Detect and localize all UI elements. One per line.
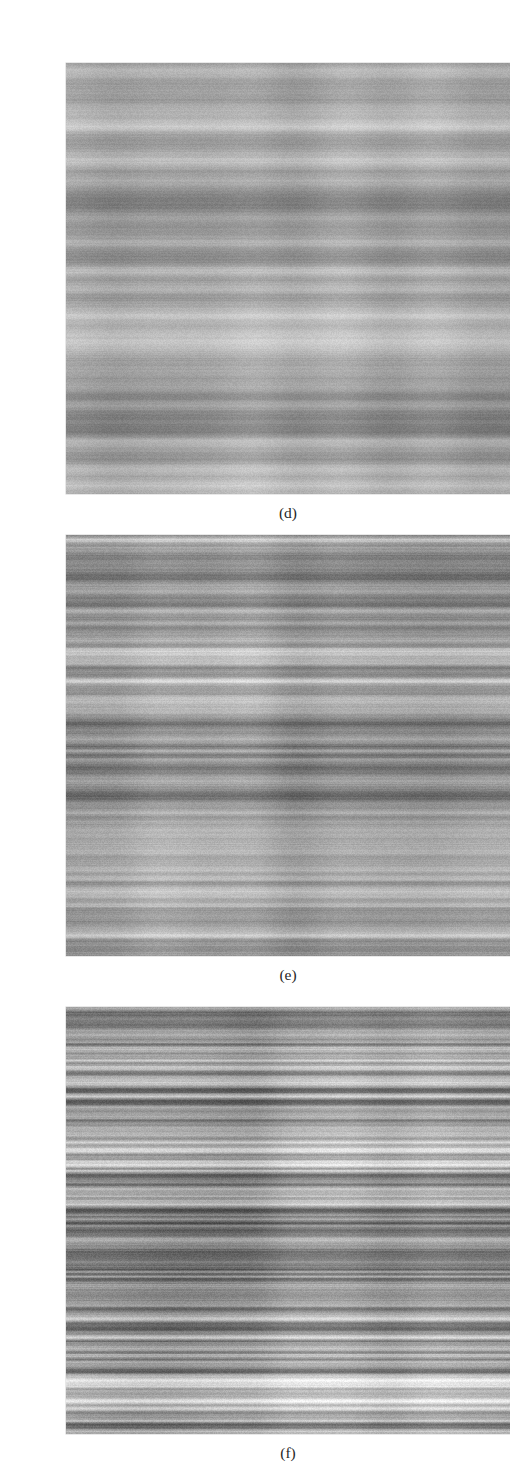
texture-image-d: [66, 63, 510, 494]
panel-caption-d: (d): [66, 505, 510, 521]
figure-panel-d: (d): [66, 63, 510, 521]
texture-canvas-f: [66, 1007, 510, 1434]
figure-panel-f: (f): [66, 1007, 510, 1461]
panel-caption-f: (f): [66, 1445, 510, 1461]
panel-caption-e: (e): [66, 967, 510, 983]
figure-panel-e: (e): [66, 535, 510, 983]
texture-image-f: [66, 1007, 510, 1434]
texture-image-e: [66, 535, 510, 956]
texture-canvas-d: [66, 63, 510, 494]
texture-canvas-e: [66, 535, 510, 956]
